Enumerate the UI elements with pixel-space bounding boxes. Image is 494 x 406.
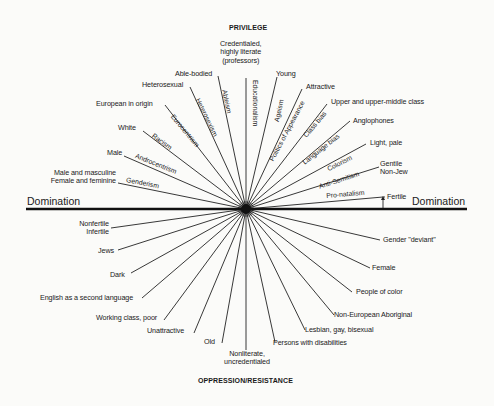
ray-line [222, 209, 246, 343]
label-esl: English as a second language [40, 294, 133, 302]
domination-right-label: Domination [412, 195, 465, 207]
label-people-of-color: People of color [356, 288, 402, 296]
ray-line [142, 209, 246, 298]
privilege-title: PRIVILEGE [229, 24, 267, 31]
label-anglophones: Anglophones [353, 117, 394, 125]
ray-line [246, 209, 275, 342]
label-unattractive: Unattractive [147, 327, 184, 335]
label-line: Infertile [50, 228, 109, 236]
label-able-bodied: Able-bodied [175, 70, 212, 78]
label-line: (professors) [220, 57, 261, 65]
label-gender-normative: Male and masculine Female and feminine [38, 169, 116, 186]
axis-educationalism: Educationalism [252, 80, 259, 126]
ray-line [194, 209, 246, 333]
label-disabilities: Persons with disabilities [273, 339, 347, 347]
label-gentile: Gentile Non-Jew [380, 160, 408, 177]
label-old: Old [204, 338, 215, 346]
label-attractive: Attractive [306, 83, 335, 91]
label-fertile: Fertile [387, 193, 406, 201]
label-male: Male [107, 149, 122, 157]
center-hub-halo [238, 201, 254, 217]
label-credentialed: Credentialed, highly literate (professor… [220, 40, 261, 65]
label-female: Female [372, 264, 395, 272]
ray-line [111, 209, 246, 228]
label-line: uncredentialed [215, 358, 279, 366]
label-nonliterate: Nonliterate, uncredentialed [215, 350, 279, 367]
label-working-class: Working class, poor [96, 314, 157, 322]
label-young: Young [276, 70, 296, 78]
ray-line [118, 183, 246, 209]
label-european: European in origin [96, 100, 153, 108]
ray-line [246, 197, 383, 209]
label-lgb: Lesbian, gay, bisexual [305, 326, 373, 334]
ray-line [131, 209, 246, 273]
label-gender-deviant: Gender "deviant" [383, 236, 436, 244]
ray-line [164, 209, 246, 320]
label-heterosexual: Heterosexual [142, 81, 183, 89]
label-line: Female and feminine [38, 177, 116, 185]
label-dark: Dark [110, 271, 125, 279]
label-jews: Jews [98, 247, 114, 255]
label-line: Non-Jew [380, 168, 408, 176]
label-nonfertile: Nonfertile Infertile [50, 220, 109, 237]
label-upper-class: Upper and upper-middle class [331, 98, 424, 106]
label-aboriginal: Non-European Aboriginal [334, 311, 412, 319]
oppression-resistance-title: OPPRESSION/RESISTANCE [198, 377, 293, 384]
label-light-pale: Light, pale [370, 139, 402, 147]
domination-left-label: Domination [27, 195, 80, 207]
ray-line [118, 209, 246, 250]
ray-line [246, 209, 370, 268]
label-white: White [118, 124, 136, 132]
